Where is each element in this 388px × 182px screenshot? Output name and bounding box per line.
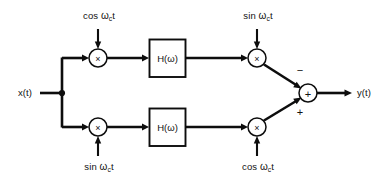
lower-input-carrier-suffix: t — [111, 161, 114, 172]
summing-junction-symbol: + — [305, 88, 311, 99]
lower-output-carrier-omega: ω — [260, 161, 268, 172]
input-signal-label: x(t) — [18, 88, 32, 98]
upper-output-carrier-prefix: sin — [243, 10, 255, 21]
upper-to-sum-wire — [264, 65, 297, 86]
diagram-vector-layer — [0, 0, 388, 182]
lower-to-sum-wire — [264, 101, 297, 121]
summing-junction-minus-sign: − — [297, 65, 303, 76]
output-arrow-icon — [345, 89, 353, 96]
lower-filter-label: H(ω) — [157, 123, 178, 133]
upper-input-carrier-omega: ω — [101, 10, 109, 21]
upper-input-carrier-label: cos ωct — [83, 11, 115, 22]
upper-output-carrier-omega: ω — [259, 10, 267, 21]
summing-junction-plus-sign: + — [297, 107, 303, 118]
upper-input-carrier-prefix: cos — [83, 10, 98, 21]
upper-output-carrier-label: sin ωct — [243, 11, 272, 22]
lower-input-carrier-arrow-icon — [95, 136, 101, 144]
lower-output-mult-arrow-icon — [241, 124, 248, 131]
upper-input-carrier-arrow-icon — [95, 42, 101, 50]
upper-filter-label: H(ω) — [157, 54, 178, 64]
lower-branch-arrow-icon — [82, 124, 89, 131]
lower-input-carrier-prefix: sin — [84, 161, 96, 172]
upper-branch-arrow-icon — [82, 55, 89, 62]
lower-input-multiplier-symbol: × — [95, 123, 100, 132]
upper-input-carrier-suffix: t — [112, 10, 115, 21]
block-diagram-canvas: x(t) y(t) cos ωct sin ωct sin ωct cos ωc… — [0, 0, 388, 182]
upper-output-mult-arrow-icon — [241, 55, 248, 62]
upper-input-multiplier-symbol: × — [95, 54, 100, 63]
lower-output-multiplier-symbol: × — [254, 123, 259, 132]
output-signal-label: y(t) — [357, 88, 371, 98]
lower-input-carrier-omega: ω — [100, 161, 108, 172]
lower-output-carrier-arrow-icon — [254, 136, 260, 144]
upper-output-multiplier-symbol: × — [254, 54, 259, 63]
upper-output-carrier-arrow-icon — [254, 42, 260, 50]
input-split-junction-dot — [59, 90, 65, 96]
lower-output-carrier-suffix: t — [271, 161, 274, 172]
lower-input-carrier-label: sin ωct — [84, 162, 113, 173]
lower-filter-input-arrow-icon — [142, 124, 149, 131]
upper-filter-input-arrow-icon — [142, 55, 149, 62]
lower-output-carrier-prefix: cos — [242, 161, 257, 172]
lower-output-carrier-label: cos ωct — [242, 162, 274, 173]
upper-output-carrier-suffix: t — [270, 10, 273, 21]
